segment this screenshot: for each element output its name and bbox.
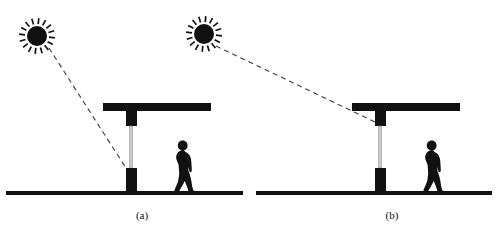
sun-ray-spoke: [186, 32, 192, 33]
sun-ray-spoke: [49, 37, 55, 38]
sun-ray-spoke: [28, 47, 31, 52]
sun-ray-spoke: [212, 43, 216, 48]
sun-ray-spoke: [210, 18, 213, 23]
sun-ray-spoke: [48, 42, 53, 45]
ground-line: [6, 191, 243, 195]
pole-upper-block: [126, 111, 137, 126]
pole-shaft: [379, 126, 382, 168]
sun-core: [27, 26, 47, 46]
sun-ray-spoke: [188, 25, 193, 28]
sun-ray-spoke: [187, 37, 193, 39]
sun-ray-spoke: [20, 39, 26, 41]
sun-ray-spoke: [216, 35, 222, 36]
sun-ray-spoke: [45, 45, 49, 50]
sun-ray-spoke: [43, 20, 46, 25]
pole-lower-block: [375, 168, 386, 191]
sun-ray-spoke: [215, 40, 220, 43]
pedestrian-silhouette: [174, 141, 195, 192]
pole-upper-block: [375, 111, 386, 126]
ground-line: [256, 191, 492, 195]
overhead-beam: [352, 103, 460, 111]
pole-shaft: [130, 126, 133, 168]
sun-ray-spoke: [32, 19, 34, 25]
sun-ray-spoke: [38, 18, 39, 24]
overhead-beam: [103, 103, 211, 111]
sun-ray-spoke: [46, 25, 51, 29]
sun-ray-spoke: [40, 47, 42, 53]
pedestrian-silhouette: [423, 141, 444, 192]
pole-lower-block: [126, 168, 137, 191]
sun-ray-spoke: [19, 34, 25, 35]
sun-ray-spoke: [23, 44, 28, 48]
sun-ray-spoke: [207, 45, 209, 51]
sun-ray-dashed-line: [216, 46, 375, 122]
sun-ray-spoke: [35, 48, 36, 54]
panel-b-caption: (b): [386, 209, 399, 222]
sun-ray-spoke: [193, 20, 197, 25]
sun-ray-spoke: [215, 29, 221, 31]
sun-ray-spoke: [202, 46, 203, 52]
panel-a: (a): [6, 18, 243, 222]
diagram-canvas: (a) (b): [0, 0, 497, 231]
sun-ray-spoke: [190, 42, 195, 46]
sun-ray-spoke: [195, 45, 198, 50]
sun-ray-spoke: [21, 27, 26, 30]
sun-core: [194, 24, 214, 44]
sun-ray-spoke: [205, 16, 206, 22]
sun-ray-spoke: [48, 31, 54, 33]
sun-ray-spoke: [199, 17, 201, 23]
sun-ray-spoke: [26, 22, 30, 27]
panel-a-caption: (a): [136, 209, 149, 222]
figure-container: (a) (b): [0, 0, 497, 231]
sun-ray-spoke: [213, 23, 218, 27]
